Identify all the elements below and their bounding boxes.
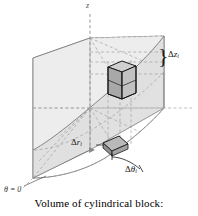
- cylindrical-wedge-diagram: [0, 0, 198, 216]
- delta-z-label: Δzi: [168, 50, 179, 60]
- z-axis-label: z: [86, 2, 89, 10]
- delta-z-subscript: i: [177, 53, 179, 59]
- theta-origin-label: θ = 0: [4, 186, 21, 194]
- delta-theta-label: Δθi: [125, 165, 137, 175]
- delta-theta-subscript: i: [135, 168, 137, 174]
- delta-r-subscript: i: [80, 141, 82, 147]
- cylindrical-block-figure: z } Δzi Δri Δθi θ = 0 Volume of cylindri…: [0, 0, 198, 216]
- cylindrical-block-element: [108, 61, 136, 99]
- cylinder-wedge-body: [33, 36, 164, 178]
- delta-r-label: Δri: [71, 138, 82, 148]
- delta-z-brace: }: [158, 44, 167, 68]
- figure-caption: Volume of cylindrical block:: [0, 197, 198, 209]
- theta-zero-leader: [24, 176, 46, 186]
- theta-zero-leader-line: [24, 176, 46, 186]
- guide-theta-zero-ground: [22, 178, 33, 189]
